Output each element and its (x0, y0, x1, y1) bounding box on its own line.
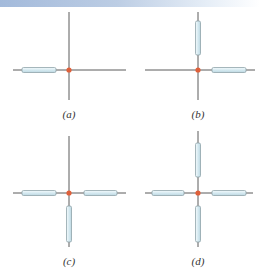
charge-point (66, 190, 71, 195)
charge-point (195, 190, 200, 195)
rod-right (84, 191, 117, 196)
panel-c: (c) (13, 136, 126, 268)
panel-b: (b) (145, 12, 255, 121)
panel-label-d: (d) (192, 255, 205, 268)
panel-a: (a) (13, 12, 126, 121)
charge-point (66, 67, 71, 72)
rod-down (67, 206, 72, 242)
panel-d: (d) (145, 131, 253, 268)
rod-down (196, 206, 201, 242)
rod-up (196, 21, 201, 55)
panel-label-c: (c) (63, 255, 76, 268)
panel-label-a: (a) (63, 108, 76, 121)
rod-up (196, 143, 201, 177)
rod-right (212, 68, 246, 73)
charge-point (195, 67, 200, 72)
rod-left (152, 191, 184, 196)
rod-left (22, 68, 56, 73)
rod-right (212, 191, 246, 196)
rod-configurations-figure: (a) (b) (c) (d) (0, 0, 260, 272)
rod-left (22, 191, 56, 196)
panel-label-b: (b) (192, 108, 205, 121)
